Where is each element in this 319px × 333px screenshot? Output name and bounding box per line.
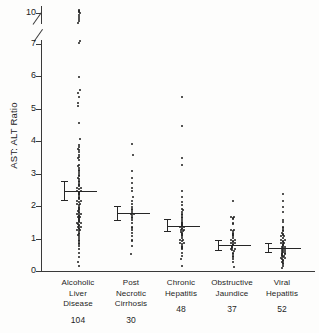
data-point (131, 240, 133, 242)
data-point (131, 170, 133, 172)
mean-line (218, 245, 251, 246)
data-point (78, 76, 80, 78)
data-point (232, 261, 234, 263)
y-tick-mark (36, 174, 42, 175)
data-point (78, 96, 80, 98)
data-point (130, 253, 132, 255)
data-point (78, 159, 80, 161)
data-point (181, 265, 183, 267)
data-point (78, 151, 80, 153)
y-tick-mark (36, 206, 42, 207)
data-point (131, 222, 133, 224)
data-point (281, 267, 283, 269)
data-point (181, 190, 183, 192)
mean-line (167, 226, 200, 227)
data-point (78, 252, 80, 254)
data-point (131, 219, 133, 221)
data-point (79, 138, 81, 140)
data-point (181, 157, 183, 159)
data-point (284, 239, 286, 241)
data-point (131, 143, 133, 145)
x-axis-group-5: ViralHepatitis52 (250, 278, 314, 315)
data-point (131, 177, 133, 179)
data-point (233, 266, 235, 268)
error-bar-cap-lower (61, 200, 68, 201)
y-tick-label: 2 (12, 201, 36, 210)
data-point (132, 196, 134, 198)
y-tick-label: 10 (12, 8, 36, 17)
data-point (131, 203, 133, 205)
y-tick-label: 0 (12, 266, 36, 275)
y-axis-line (41, 6, 42, 272)
data-point (234, 242, 236, 244)
y-tick-label: 5 (12, 104, 36, 113)
data-point (282, 206, 284, 208)
data-point (77, 105, 79, 107)
data-point (232, 200, 234, 202)
data-point (234, 239, 236, 241)
data-point (77, 92, 79, 94)
data-point (131, 232, 133, 234)
data-point (78, 248, 80, 250)
data-point (78, 256, 80, 258)
y-tick-label: 4 (12, 136, 36, 145)
data-point (181, 125, 183, 127)
y-tick-label: 6 (12, 71, 36, 80)
data-point (77, 261, 79, 263)
error-bar-cap-upper (114, 206, 121, 207)
data-point (78, 265, 80, 267)
error-bar-cap-lower (114, 220, 121, 221)
y-tick-label: 1 (12, 234, 36, 243)
mean-line (64, 191, 97, 192)
data-point (131, 245, 133, 247)
data-point (181, 196, 183, 198)
y-tick-mark (36, 109, 42, 110)
data-point (132, 154, 134, 156)
y-tick-label: 3 (12, 169, 36, 178)
x-axis-group-count: 52 (250, 304, 314, 315)
mean-line (117, 213, 150, 214)
data-point (181, 204, 183, 206)
error-bar-cap-upper (164, 219, 171, 220)
y-tick-mark (36, 141, 42, 142)
error-bar-cap-upper (61, 181, 68, 182)
error-bar-cap-upper (265, 243, 272, 244)
data-point (131, 190, 133, 192)
x-axis-group-count: 30 (99, 315, 163, 326)
error-bar-whisker (117, 206, 118, 220)
data-point (77, 102, 79, 104)
error-bar-cap-lower (215, 250, 222, 251)
data-point (131, 187, 133, 189)
data-point (181, 248, 183, 250)
data-point (181, 201, 183, 203)
data-point (181, 255, 183, 257)
mean-line (268, 248, 301, 249)
y-tick-mark (36, 76, 42, 77)
data-point (78, 42, 80, 44)
y-tick-label: 7 (12, 39, 36, 48)
data-point (282, 221, 284, 223)
data-point (232, 223, 234, 225)
data-point (79, 89, 81, 91)
data-point (131, 182, 133, 184)
data-point (77, 22, 79, 24)
data-point (131, 200, 133, 202)
data-point (80, 213, 82, 215)
data-point (131, 235, 133, 237)
data-point (78, 245, 80, 247)
data-point (180, 258, 182, 260)
error-bar-whisker (64, 181, 65, 201)
error-bar-cap-upper (215, 240, 222, 241)
data-point (131, 229, 133, 231)
y-tick-mark (36, 13, 42, 14)
error-bar-whisker (268, 243, 269, 252)
data-point (232, 218, 234, 220)
data-point (284, 257, 286, 259)
data-point (181, 96, 183, 98)
error-bar-whisker (218, 240, 219, 250)
data-point (181, 252, 183, 254)
data-point (80, 187, 82, 189)
error-bar-whisker (167, 219, 168, 231)
y-tick-mark (36, 239, 42, 240)
y-tick-mark (36, 271, 42, 272)
